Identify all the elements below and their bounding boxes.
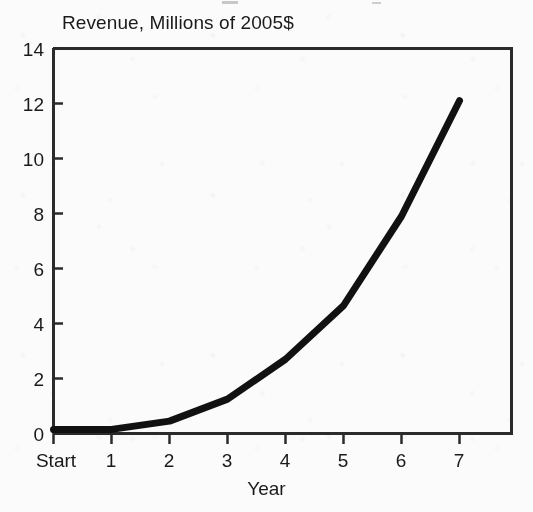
x-tick-label: Start [36,450,77,471]
y-tick-label: 14 [23,39,45,60]
y-tick-label: 4 [33,314,44,335]
revenue-data-line [54,101,460,430]
x-tick-label: 6 [396,450,407,471]
y-axis-tick-labels: 14 12 10 8 6 4 2 0 [23,39,45,445]
x-tick-label: 2 [164,450,175,471]
x-tick-label: 3 [222,450,233,471]
y-tick-label: 2 [33,369,44,390]
y-tick-label: 12 [23,94,44,115]
y-tick-label: 10 [23,149,44,170]
x-tick-label: 1 [106,450,117,471]
y-tick-label: 0 [33,424,44,445]
plot-frame [53,48,513,433]
y-tick-label: 6 [33,259,44,280]
x-tick-label: 5 [338,450,349,471]
x-axis-title: Year [0,478,533,500]
x-tick-label: 7 [454,450,465,471]
revenue-line-chart: 14 12 10 8 6 4 2 0 Start 1 2 3 4 5 6 7 [0,0,533,512]
y-tick-label: 8 [33,204,44,225]
x-tick-label: 4 [280,450,291,471]
chart-page: Revenue, Millions of 2005$ [0,0,533,512]
x-axis-tick-labels: Start 1 2 3 4 5 6 7 [36,450,464,471]
